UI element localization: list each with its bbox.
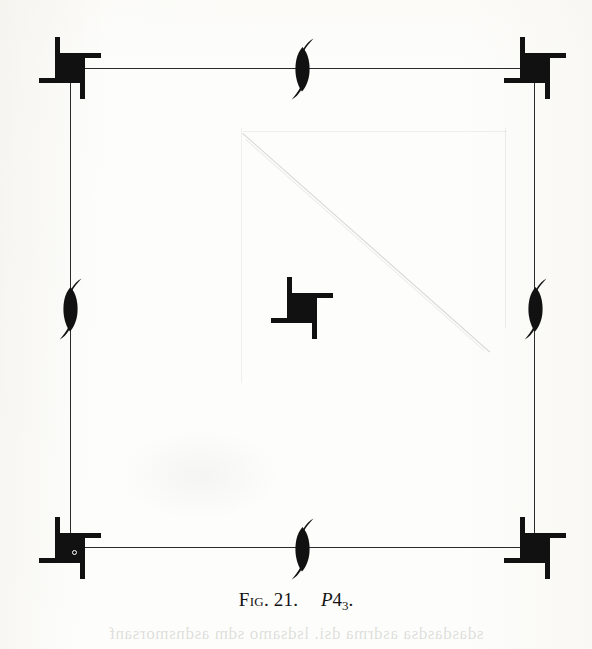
- screw-axis-4-3-top-left: [39, 37, 101, 99]
- figure-page: Fig. 21. P43. sdasdasdsa asdrma dsi. lsd…: [0, 0, 592, 649]
- lens-glyph-icon: [279, 515, 325, 581]
- screw-axis-4-3-bottom-right: [504, 517, 566, 579]
- lens-glyph-icon: [279, 35, 325, 101]
- screw-axis-arm-down: [80, 561, 85, 579]
- screw-axis-arm-right: [83, 53, 101, 58]
- screw-axis-arm-down: [545, 81, 550, 99]
- screw-axis-square: [55, 533, 85, 563]
- space-group-order: 4: [333, 589, 343, 610]
- caption-fig-word: Fig.: [239, 589, 269, 610]
- screw-axis-arm-down: [80, 81, 85, 99]
- screw-axis-square: [287, 293, 317, 323]
- origin-circle-icon: [72, 550, 77, 555]
- screw-axis-2-1-edge-top: [279, 35, 325, 101]
- caption-space-group: P43.: [321, 589, 353, 610]
- screw-axis-arm-right: [548, 533, 566, 538]
- space-group-period: .: [348, 589, 353, 610]
- screw-axis-arm-right: [83, 533, 101, 538]
- screw-axis-square: [520, 53, 550, 83]
- screw-axis-2-1-edge-right: [512, 275, 558, 341]
- space-group-letter: P: [321, 589, 333, 610]
- screw-axis-2-1-edge-bottom: [279, 515, 325, 581]
- scan-artifact-bleed-text: sdasdasdsa asdrma dsi. lsdsamo sdm asdns…: [0, 624, 592, 644]
- lens-glyph-icon: [47, 275, 93, 341]
- screw-axis-2-1-edge-left: [47, 275, 93, 341]
- lens-glyph-icon: [512, 275, 558, 341]
- figure-caption: Fig. 21. P43.: [0, 589, 592, 614]
- screw-axis-arm-down: [312, 321, 317, 339]
- screw-axis-4-3-top-right: [504, 37, 566, 99]
- screw-axis-4-3-center: [271, 277, 333, 339]
- screw-axis-arm-right: [315, 293, 333, 298]
- screw-axis-arm-right: [548, 53, 566, 58]
- screw-axis-square: [55, 53, 85, 83]
- screw-axis-4-3-bottom-left: [39, 517, 101, 579]
- screw-axis-square: [520, 533, 550, 563]
- screw-axis-arm-down: [545, 561, 550, 579]
- caption-fig-number: 21.: [274, 589, 298, 610]
